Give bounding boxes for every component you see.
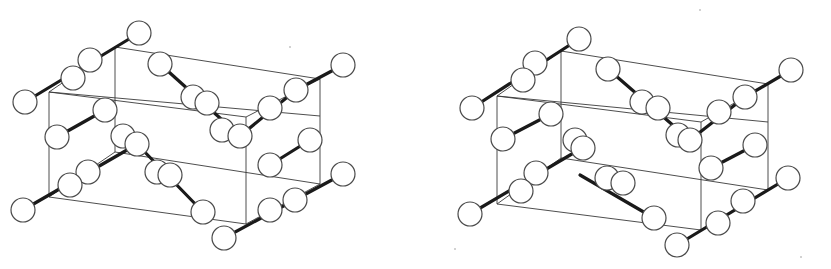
atom [571,136,595,160]
atom [458,202,482,226]
frame-edge [497,204,701,230]
atom [228,124,252,148]
scan-speck [800,256,802,258]
scan-speck [289,46,291,48]
atom [331,53,355,77]
atom [284,78,308,102]
atom [331,162,355,186]
atom [195,91,219,115]
frame-edge [561,51,768,84]
atom [93,98,117,122]
frame-edge [115,47,320,79]
atom [611,171,635,195]
atom [258,153,282,177]
atoms [458,27,803,257]
atom [743,133,767,157]
unit-cell-frame [497,51,768,230]
atom [678,128,702,152]
atom [731,189,755,213]
right-view [458,27,803,257]
atom [699,156,723,180]
atom [511,68,535,92]
atom [596,57,620,81]
atom [733,85,757,109]
atom [158,163,182,187]
atom [567,27,591,51]
atom [665,233,689,257]
atom [776,166,800,190]
crystal-structure-canvas [0,0,831,269]
atom [460,96,484,120]
stereo-diagram [0,0,831,269]
atom [779,58,803,82]
left-view [11,21,355,250]
bond [677,178,788,245]
atom [539,102,563,126]
atom [706,211,730,235]
atom [283,188,307,212]
atom [61,66,85,90]
atom [646,96,670,120]
frame-edge [561,158,768,190]
atom [509,179,533,203]
atom [707,100,731,124]
atom [58,173,82,197]
atom [191,200,215,224]
atom [125,132,149,156]
atom [13,90,37,114]
atom [258,96,282,120]
atom [298,128,322,152]
atom [491,127,515,151]
atom [212,226,236,250]
atom [642,206,666,230]
atom [45,125,69,149]
scan-speck [699,9,701,11]
atom [127,21,151,45]
atom [258,198,282,222]
atom [148,52,172,76]
unit-cell-frame [49,47,320,224]
frame-edge [49,197,246,224]
frame-edge [246,184,320,224]
atom [78,48,102,72]
atom [11,198,35,222]
bond [224,174,343,238]
scan-speck [454,248,456,250]
